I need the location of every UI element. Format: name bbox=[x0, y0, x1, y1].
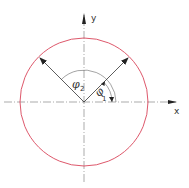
polar-angle-diagram: x y φ 2 φ 1 bbox=[0, 0, 189, 188]
angle-1-subscript: 1 bbox=[102, 95, 106, 103]
angle-2-subscript: 2 bbox=[80, 85, 84, 93]
y-axis-label: y bbox=[91, 13, 97, 23]
x-axis-label: x bbox=[174, 106, 180, 116]
angle-arc-1-end-arrow-icon bbox=[109, 97, 114, 102]
angle-2-symbol: φ bbox=[72, 78, 80, 91]
y-axis-arrow-icon bbox=[82, 13, 86, 24]
x-axis-arrow-icon bbox=[168, 100, 177, 104]
